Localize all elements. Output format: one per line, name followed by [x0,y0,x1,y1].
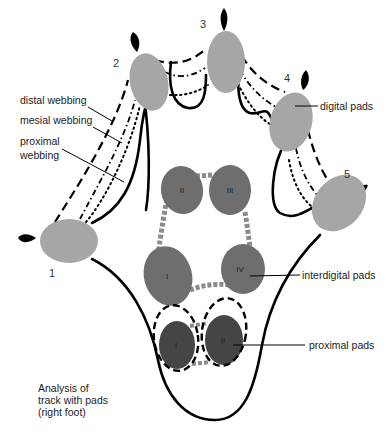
claw-1-icon [18,234,36,242]
digit-number-1: 1 [49,267,55,279]
digital-pad-1 [40,219,98,263]
digit-number-4: 4 [284,72,290,84]
leader-mesial-webbing [93,127,122,143]
svg-text:I: I [175,341,177,350]
digital-pads [40,31,377,263]
caption-line-3: (right foot) [38,406,108,418]
digit-number-3: 3 [200,18,206,30]
label-proximal-pads: proximal pads [309,339,374,351]
label-distal-webbing: distal webbing [20,94,87,106]
leader-proximal-webbing [62,149,124,182]
label-mesial-webbing: mesial webbing [20,114,92,126]
interdigital-pads [137,163,265,311]
svg-text:II: II [221,336,225,345]
digital-pad-4 [263,88,319,157]
svg-text:I: I [166,272,168,281]
label-proximal-webbing-2: webbing [20,149,59,161]
digital-pad-3 [207,31,245,93]
claw-2-icon [130,32,139,52]
svg-text:II: II [180,186,184,195]
foot-track-diagram: II III I IV I II 2 3 4 5 1 distal webbin… [0,0,388,441]
digital-pad-2 [124,50,173,115]
diagram-svg: II III I IV I II [0,0,388,441]
caption-line-2: track with pads [38,394,108,406]
svg-text:III: III [227,186,234,195]
claw-3-icon [221,8,228,31]
digit-number-2: 2 [113,57,119,69]
caption: Analysis of track with pads (right foot) [38,382,108,418]
digital-pad-5 [301,164,378,242]
svg-text:IV: IV [236,265,244,274]
label-proximal-webbing-1: proximal [20,135,60,147]
label-interdigital-pads: interdigital pads [302,269,376,281]
digit-number-5: 5 [344,168,350,180]
caption-line-1: Analysis of [38,382,108,394]
label-digital-pads: digital pads [320,100,373,112]
claw-4-icon [301,70,309,90]
